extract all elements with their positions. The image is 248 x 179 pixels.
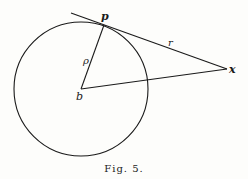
label-rho: ρ xyxy=(82,55,89,66)
label-r: r xyxy=(168,37,174,48)
tangent-line xyxy=(71,13,227,69)
label-x: x xyxy=(228,63,236,76)
label-b: b xyxy=(76,90,83,103)
figure-5-diagram: p r x ρ b Fig. 5. xyxy=(0,0,248,179)
figure-caption: Fig. 5. xyxy=(104,163,143,174)
segment-bx xyxy=(81,69,227,89)
label-p: p xyxy=(101,10,109,23)
